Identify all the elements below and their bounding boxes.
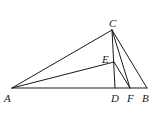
point-labels: ABCDEF <box>3 17 149 104</box>
segments <box>12 30 147 88</box>
point-label-f: F <box>126 92 134 104</box>
point-label-a: A <box>3 92 11 104</box>
segment-cb <box>112 30 147 88</box>
segment-ef <box>114 62 130 88</box>
point-label-d: D <box>110 92 119 104</box>
segment-ae <box>12 62 114 88</box>
point-label-e: E <box>101 53 109 65</box>
point-label-c: C <box>109 17 117 29</box>
triangle-figure: ABCDEF <box>0 0 153 117</box>
geometry-diagram: ABCDEF <box>0 0 153 117</box>
point-label-b: B <box>142 92 149 104</box>
segment-ac <box>12 30 112 88</box>
